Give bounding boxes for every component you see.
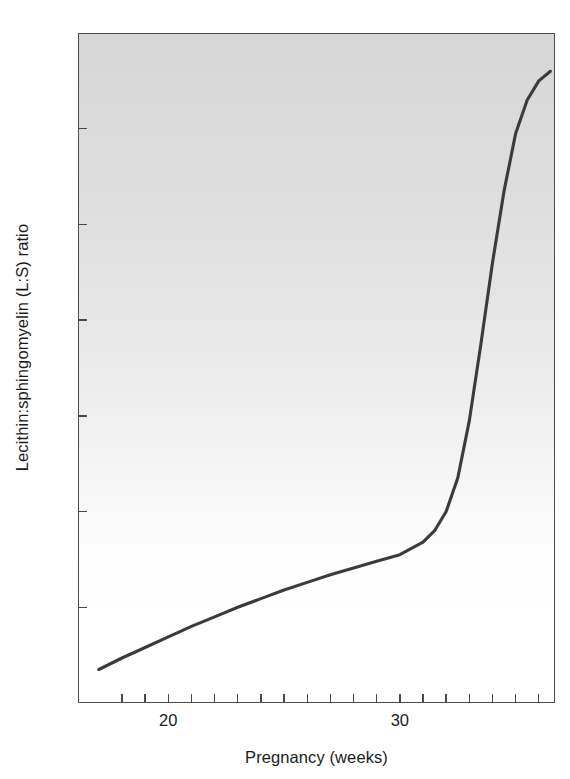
x-tick-mark	[330, 694, 331, 703]
x-tick-mark	[144, 694, 145, 703]
x-tick-mark	[376, 694, 377, 703]
y-tick-mark	[78, 128, 87, 129]
x-tick-mark	[353, 694, 354, 703]
x-tick-mark	[422, 694, 423, 703]
x-tick-mark	[492, 694, 493, 703]
y-tick-mark	[78, 415, 87, 416]
y-tick-mark	[78, 511, 87, 512]
x-tick-label: 30	[375, 712, 425, 729]
ls-ratio-curve	[99, 71, 551, 669]
x-tick-mark	[237, 694, 238, 703]
x-tick-label: 20	[143, 712, 193, 729]
y-tick-mark	[78, 319, 87, 320]
y-tick-mark	[78, 607, 87, 608]
y-axis-label: Lecithin:sphingomyelin (L:S) ratio	[13, 98, 32, 598]
x-tick-mark	[283, 694, 284, 703]
chart-figure: 1234567 2030 Lecithin:sphingomyelin (L:S…	[0, 0, 570, 779]
x-tick-mark	[260, 694, 261, 703]
x-tick-mark	[445, 694, 446, 703]
x-tick-mark	[515, 694, 516, 703]
x-tick-mark	[191, 694, 192, 703]
x-tick-mark	[168, 694, 169, 703]
x-tick-mark	[399, 694, 400, 703]
x-axis-label: Pregnancy (weeks)	[78, 748, 555, 767]
x-tick-mark	[214, 694, 215, 703]
ls-ratio-curve-svg	[78, 33, 555, 703]
x-tick-mark	[469, 694, 470, 703]
x-tick-mark	[538, 694, 539, 703]
y-axis-ticks: 1234567	[0, 0, 66, 779]
y-tick-mark	[78, 224, 87, 225]
x-tick-mark	[307, 694, 308, 703]
x-tick-mark	[121, 694, 122, 703]
